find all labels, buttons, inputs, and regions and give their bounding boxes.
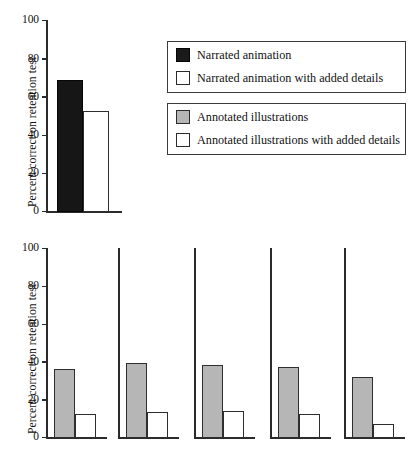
- top-chart-tick-label-0: 0: [8, 205, 39, 217]
- bar-annotated-illustrations-panel-3: [202, 365, 223, 438]
- legend-item-narrated-animation: Narrated animation: [176, 48, 291, 62]
- black-swatch-icon: [176, 48, 190, 62]
- top-chart-tick-0: [42, 211, 47, 212]
- bottom-chart: Percent correct on retention test 100 80…: [0, 238, 417, 449]
- top-chart-y-axis: [46, 20, 48, 212]
- bottom-chart-panel-5-y-axis: [344, 248, 346, 438]
- bar-annotated-illustrations-panel-2: [126, 363, 147, 438]
- bottom-chart-tick-80: [42, 286, 47, 287]
- bar-narrated-animation: [57, 80, 83, 211]
- bar-narrated-animation-added-details: [83, 111, 109, 211]
- top-chart-tick-100: [42, 20, 47, 21]
- legend-item-label: Narrated animation with added details: [197, 72, 383, 85]
- bottom-chart-tick-60: [42, 324, 47, 325]
- bottom-chart-panel-1-y-axis: [46, 248, 48, 438]
- top-chart: Percent correct on retention test 100 80…: [0, 0, 160, 230]
- bar-annotated-illustrations-added-details-panel-4: [299, 414, 320, 438]
- white-swatch-icon: [176, 133, 190, 147]
- top-chart-tick-40: [42, 135, 47, 136]
- legend-item-annotated-illustrations-added-details: Annotated illustrations with added detai…: [176, 133, 400, 147]
- bar-annotated-illustrations-panel-1: [54, 369, 75, 438]
- top-chart-tick-20: [42, 173, 47, 174]
- gray-swatch-icon: [176, 110, 190, 124]
- bottom-chart-tick-label-0: 0: [8, 431, 39, 443]
- bottom-chart-tick-100: [42, 248, 47, 249]
- legend-item-annotated-illustrations: Annotated illustrations: [176, 110, 308, 124]
- bottom-chart-tick-label-80: 80: [8, 280, 39, 292]
- top-chart-tick-80: [42, 58, 47, 59]
- top-chart-tick-label-80: 80: [8, 53, 39, 65]
- legend-item-label: Annotated illustrations: [197, 111, 308, 124]
- legend-item-narrated-animation-added-details: Narrated animation with added details: [176, 71, 383, 85]
- bottom-chart-tick-0: [42, 437, 47, 438]
- legend-item-label: Narrated animation: [197, 49, 291, 62]
- bottom-chart-tick-label-60: 60: [8, 318, 39, 330]
- bottom-chart-tick-label-100: 100: [8, 242, 39, 254]
- bar-annotated-illustrations-added-details-panel-5: [373, 424, 394, 438]
- bar-annotated-illustrations-panel-4: [278, 367, 299, 438]
- legend-item-label: Annotated illustrations with added detai…: [197, 134, 400, 147]
- bottom-chart-panel-4-y-axis: [270, 248, 272, 438]
- bottom-chart-tick-label-40: 40: [8, 356, 39, 368]
- bottom-chart-tick-40: [42, 361, 47, 362]
- top-chart-tick-label-60: 60: [8, 91, 39, 103]
- white-swatch-icon: [176, 71, 190, 85]
- bottom-chart-tick-label-20: 20: [8, 394, 39, 406]
- legend-group-annotated-illustrations: Annotated illustrations Annotated illust…: [167, 103, 406, 155]
- bar-annotated-illustrations-panel-5: [352, 377, 373, 439]
- bottom-chart-tick-20: [42, 399, 47, 400]
- top-chart-tick-label-20: 20: [8, 167, 39, 179]
- legend-group-narrated-animation: Narrated animation Narrated animation wi…: [167, 41, 406, 93]
- top-chart-tick-label-40: 40: [8, 129, 39, 141]
- bar-annotated-illustrations-added-details-panel-1: [75, 414, 96, 438]
- bottom-chart-panel-2-y-axis: [118, 248, 120, 438]
- bar-annotated-illustrations-added-details-panel-2: [147, 412, 168, 438]
- bottom-chart-panel-3-y-axis: [194, 248, 196, 438]
- bar-annotated-illustrations-added-details-panel-3: [223, 411, 244, 439]
- top-chart-tick-label-100: 100: [8, 14, 39, 26]
- top-chart-tick-60: [42, 96, 47, 97]
